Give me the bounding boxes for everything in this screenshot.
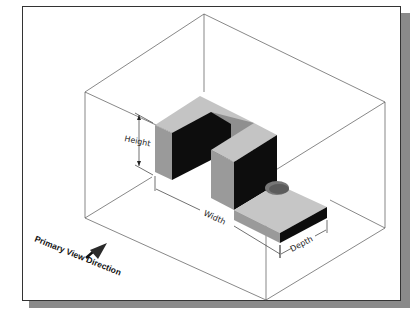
height-dimension: Height [124, 113, 153, 175]
left-block-front [155, 125, 172, 180]
depth-label: Depth [289, 234, 315, 253]
height-label: Height [124, 134, 152, 148]
view-direction-label: Primary View Direction [33, 234, 122, 278]
view-direction-indicator: Primary View Direction [33, 234, 122, 278]
isometric-drawing: Height Width Depth Primary View Directio… [0, 0, 413, 315]
3d-part [155, 96, 327, 243]
width-label: Width [202, 209, 227, 227]
